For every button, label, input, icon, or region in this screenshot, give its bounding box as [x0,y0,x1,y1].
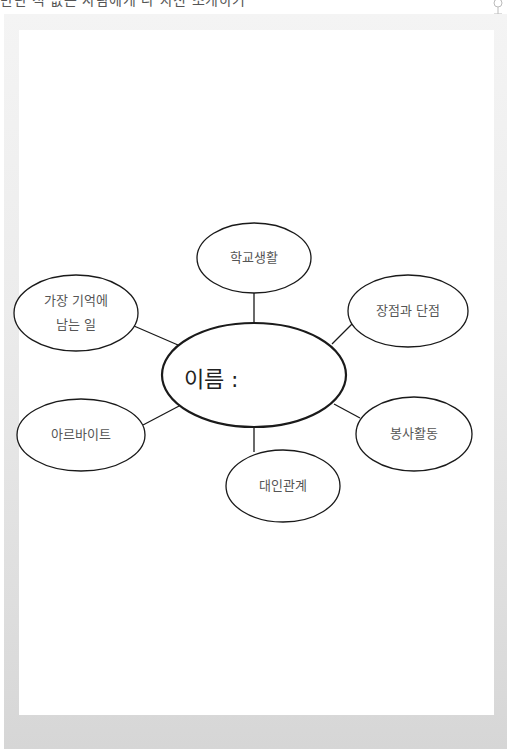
label-memorable-line2: 남는 일 [44,313,108,337]
label-part-time: 아르바이트 [51,423,111,447]
label-memorable: 가장 기억에 남는 일 [44,289,108,337]
connector-pros-cons [332,324,352,344]
mindmap-diagram [0,0,509,749]
label-memorable-line1: 가장 기억에 [44,289,108,313]
connector-volunteer [334,404,360,418]
label-school-life: 학교생활 [230,246,278,270]
label-relationships: 대인관계 [259,474,307,498]
label-center-name: 이름 : [184,361,238,393]
label-pros-cons: 장점과 단점 [376,299,440,323]
label-volunteer: 봉사활동 [390,422,438,446]
connector-part-time [143,405,181,425]
connector-memorable [134,326,178,345]
